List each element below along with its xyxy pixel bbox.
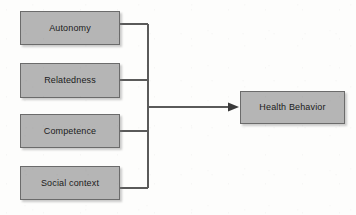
arrowhead-icon [228,103,239,112]
node-health-behavior-label: Health Behavior [259,103,325,112]
node-social-context-label: Social context [41,179,99,188]
node-relatedness[interactable]: Relatedness [20,63,120,98]
node-relatedness-label: Relatedness [44,76,96,85]
node-health-behavior[interactable]: Health Behavior [240,91,345,124]
diagram-canvas: Autonomy Relatedness Competence Social c… [0,0,356,215]
node-autonomy-label: Autonomy [49,24,91,33]
node-autonomy[interactable]: Autonomy [20,11,120,45]
node-social-context[interactable]: Social context [20,166,120,200]
node-competence-label: Competence [44,127,97,136]
node-competence[interactable]: Competence [20,114,120,148]
